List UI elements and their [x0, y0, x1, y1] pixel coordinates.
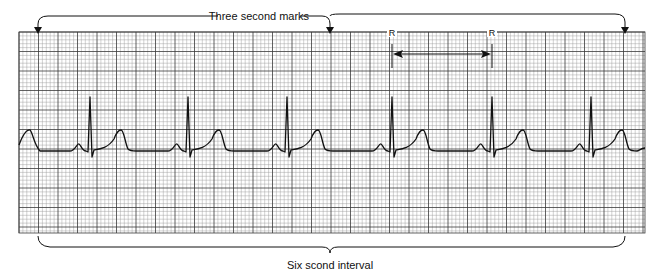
six-second-brace [38, 236, 625, 253]
three-second-arrow-3-icon [621, 27, 629, 34]
three-second-arrow-1-icon [34, 27, 42, 34]
ecg-grid-paper [19, 32, 645, 233]
three-second-marks-label: Three second marks [209, 10, 310, 22]
r-label-1: R [389, 28, 396, 38]
three-second-bracket [38, 14, 625, 28]
ecg-strip-diagram: Three second marks R R Six scond interva… [0, 0, 655, 276]
six-second-interval-label: Six scond interval [287, 259, 373, 271]
r-label-2: R [489, 28, 496, 38]
